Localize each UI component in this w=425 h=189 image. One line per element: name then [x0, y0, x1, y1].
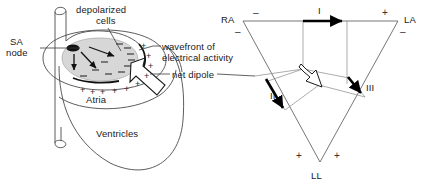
triangle-outline	[243, 21, 398, 162]
lead-III-vector	[348, 77, 361, 93]
triangle-net-dipole-arrow	[299, 64, 322, 87]
polarity-ra-top: –	[253, 7, 259, 18]
lead-label-III: III	[366, 82, 374, 93]
vertex-label-LA: LA	[404, 14, 416, 25]
triangle-side-lead-II	[243, 21, 320, 162]
lead-label-I: I	[318, 5, 321, 16]
vertex-label-LL: LL	[311, 170, 322, 181]
net-dipole-leader	[217, 74, 255, 76]
lead-label-II: II	[270, 90, 275, 101]
polarity-la-top: +	[382, 7, 388, 18]
polarity-ra-lower: –	[235, 26, 241, 37]
polarity-la-lower: –	[400, 26, 406, 37]
polarity-ll-left: +	[296, 150, 302, 161]
ecg-dipole-figure: SA node depolarized cells wavefront of e…	[0, 0, 425, 189]
einthoven-triangle-svg	[0, 0, 425, 189]
vertex-label-RA: RA	[221, 14, 234, 25]
polarity-ll-right: +	[334, 150, 340, 161]
